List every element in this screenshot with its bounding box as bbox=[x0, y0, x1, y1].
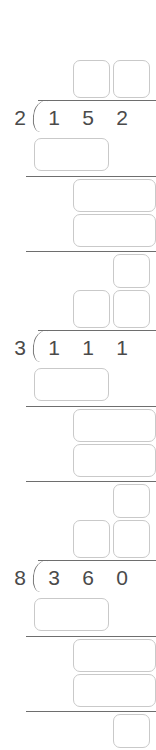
subtraction-rule-1 bbox=[26, 406, 156, 407]
dividend-digit-3: 2 bbox=[112, 102, 132, 134]
work-box-1[interactable] bbox=[34, 368, 109, 401]
subtraction-rule-1 bbox=[26, 636, 156, 637]
remainder-box[interactable] bbox=[113, 254, 150, 288]
vinculum-line bbox=[38, 100, 156, 101]
dividend-digit-1: 1 bbox=[44, 102, 64, 134]
divisor-digit: 2 bbox=[10, 102, 30, 134]
quotient-digit-box-1[interactable] bbox=[73, 60, 110, 98]
dividend-digit-2: 6 bbox=[78, 562, 98, 594]
quotient-digit-box-1[interactable] bbox=[73, 520, 110, 558]
quotient-digit-box-2[interactable] bbox=[113, 290, 150, 328]
remainder-box[interactable] bbox=[113, 714, 150, 748]
work-box-3[interactable] bbox=[73, 214, 156, 247]
quotient-digit-box-2[interactable] bbox=[113, 520, 150, 558]
dividend-digit-1: 1 bbox=[44, 332, 64, 364]
quotient-row bbox=[0, 58, 156, 98]
work-box-2[interactable] bbox=[73, 409, 156, 442]
work-box-1[interactable] bbox=[34, 598, 109, 631]
division-problem-2: 3 1 1 1 bbox=[0, 288, 156, 518]
work-box-1[interactable] bbox=[34, 138, 109, 171]
quotient-row bbox=[0, 518, 156, 558]
dividend-digit-3: 1 bbox=[112, 332, 132, 364]
dividend-digit-2: 1 bbox=[78, 332, 98, 364]
vinculum-line bbox=[38, 330, 156, 331]
subtraction-rule-2 bbox=[26, 251, 156, 252]
remainder-box[interactable] bbox=[113, 484, 150, 518]
long-division-worksheet: 2 1 5 2 3 1 1 1 bbox=[0, 0, 156, 750]
dividend-row: 3 1 1 1 bbox=[0, 332, 156, 364]
work-box-2[interactable] bbox=[73, 179, 156, 212]
subtraction-rule-1 bbox=[26, 176, 156, 177]
division-problem-3: 8 3 6 0 bbox=[0, 518, 156, 748]
dividend-digit-3: 0 bbox=[112, 562, 132, 594]
quotient-digit-box-1[interactable] bbox=[73, 290, 110, 328]
work-box-3[interactable] bbox=[73, 444, 156, 477]
vinculum-line bbox=[38, 560, 156, 561]
dividend-row: 8 3 6 0 bbox=[0, 562, 156, 594]
divisor-digit: 3 bbox=[10, 332, 30, 364]
quotient-digit-box-2[interactable] bbox=[113, 60, 150, 98]
dividend-digit-1: 3 bbox=[44, 562, 64, 594]
work-box-3[interactable] bbox=[73, 674, 156, 707]
subtraction-rule-2 bbox=[26, 711, 156, 712]
division-problem-1: 2 1 5 2 bbox=[0, 58, 156, 288]
subtraction-rule-2 bbox=[26, 481, 156, 482]
dividend-row: 2 1 5 2 bbox=[0, 102, 156, 134]
divisor-digit: 8 bbox=[10, 562, 30, 594]
work-box-2[interactable] bbox=[73, 639, 156, 672]
quotient-row bbox=[0, 288, 156, 328]
dividend-digit-2: 5 bbox=[78, 102, 98, 134]
